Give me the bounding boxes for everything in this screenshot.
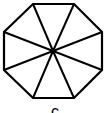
figure-label: c — [0, 104, 110, 113]
center-point — [51, 49, 55, 53]
octagon-diagram — [0, 0, 110, 113]
